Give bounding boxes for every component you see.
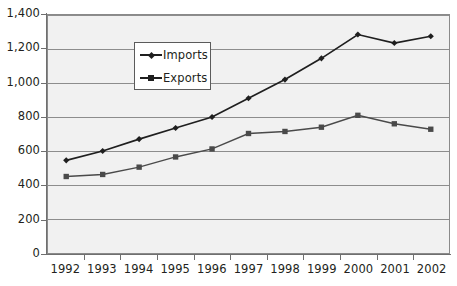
x-tick-mark — [340, 255, 341, 260]
x-tick-mark — [84, 255, 85, 260]
y-tick-mark — [41, 151, 46, 152]
data-point — [391, 40, 397, 46]
x-tick-mark — [267, 255, 268, 260]
y-tick-label: 1,400 — [7, 6, 40, 20]
y-tick-label: 200 — [18, 212, 40, 226]
data-point — [136, 164, 141, 169]
data-point — [245, 95, 251, 101]
data-point — [209, 146, 214, 151]
x-tick-mark — [120, 255, 121, 260]
data-point — [100, 172, 105, 177]
data-point — [64, 174, 69, 179]
y-tick-mark — [41, 48, 46, 49]
y-tick-label: 1,000 — [7, 75, 40, 89]
data-point — [173, 125, 179, 131]
x-tick-mark — [194, 255, 195, 260]
data-point — [282, 129, 287, 134]
x-tick-mark — [303, 255, 304, 260]
data-point — [209, 114, 215, 120]
legend-entry-exports: Exports — [135, 66, 210, 90]
data-point — [136, 136, 142, 142]
legend-label-imports: Imports — [163, 48, 208, 62]
legend: Imports Exports — [134, 42, 211, 90]
y-tick-label: 1,200 — [7, 40, 40, 54]
diamond-marker-icon — [139, 48, 163, 62]
data-point — [392, 121, 397, 126]
x-tick-mark — [157, 255, 158, 260]
y-tick-label: 400 — [18, 177, 40, 191]
data-point — [428, 33, 434, 39]
series-lines — [48, 15, 449, 253]
data-point — [173, 154, 178, 159]
legend-label-exports: Exports — [163, 71, 207, 85]
legend-entry-imports: Imports — [135, 43, 210, 67]
square-marker-icon — [139, 71, 163, 85]
y-tick-mark — [41, 14, 46, 15]
x-tick-mark — [413, 255, 414, 260]
line-chart: 02004006008001,0001,2001,400 19921993199… — [0, 0, 457, 286]
y-tick-mark — [41, 254, 46, 255]
y-tick-label: 800 — [18, 109, 40, 123]
x-tick-label: 2002 — [410, 262, 454, 276]
data-point — [355, 113, 360, 118]
data-point — [100, 148, 106, 154]
y-tick-mark — [41, 220, 46, 221]
data-point — [428, 127, 433, 132]
x-tick-mark — [230, 255, 231, 260]
data-point — [63, 157, 69, 163]
plot-area — [47, 14, 450, 254]
y-axis-line — [46, 13, 47, 255]
data-point — [319, 125, 324, 130]
y-tick-label: 600 — [18, 143, 40, 157]
y-tick-mark — [41, 117, 46, 118]
x-axis-line — [46, 254, 451, 255]
y-tick-mark — [41, 185, 46, 186]
data-point — [246, 131, 251, 136]
y-tick-mark — [41, 83, 46, 84]
x-tick-mark — [377, 255, 378, 260]
y-tick-label: 0 — [33, 246, 40, 260]
